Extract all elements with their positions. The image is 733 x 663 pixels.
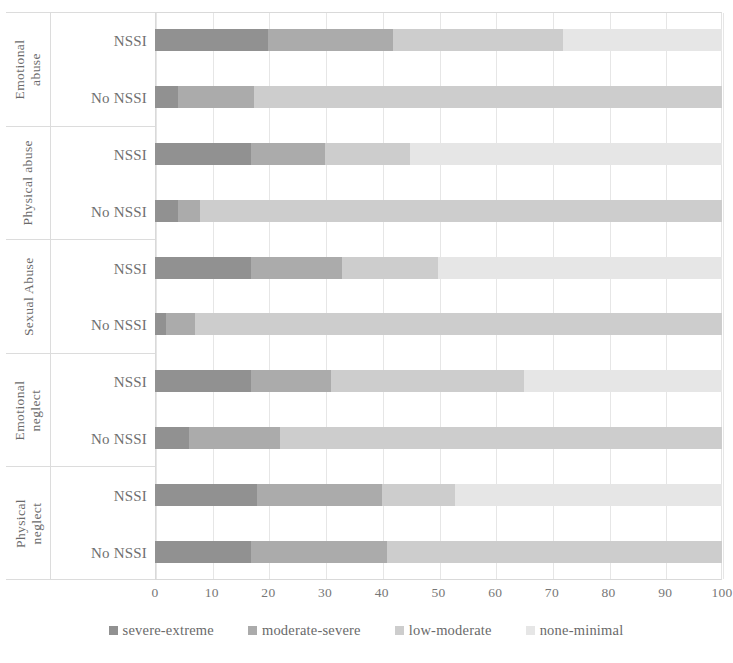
bar-segment-low-moderate: [200, 200, 722, 222]
category-label-line: neglect: [28, 380, 44, 440]
legend-label: severe-extreme: [123, 622, 214, 639]
bar-segment-moderate-severe: [178, 86, 255, 108]
group-box: NSSINo NSSI: [50, 12, 155, 126]
category-label-text: Physical abuse: [20, 140, 36, 225]
bar-segment-moderate-severe: [251, 370, 330, 392]
bar-segment-low-moderate: [331, 370, 524, 392]
bar-segment-severe-extreme: [155, 370, 251, 392]
bar-physical-neglect-no-nssi: [155, 541, 722, 563]
legend-item-severe-extreme[interactable]: severe-extreme: [109, 622, 214, 639]
row-label-nssi: NSSI: [114, 374, 147, 391]
group-box: NSSINo NSSI: [50, 353, 155, 467]
bar-segment-low-moderate: [195, 313, 722, 335]
legend-item-moderate-severe[interactable]: moderate-severe: [248, 622, 361, 639]
bar-segment-moderate-severe: [178, 200, 201, 222]
category-axis: EmotionalabusePhysical abuseSexual Abuse…: [6, 12, 50, 580]
row-label-nssi: NSSI: [114, 33, 147, 50]
bar-segment-low-moderate: [254, 86, 722, 108]
x-tick-label-10: 10: [205, 585, 219, 601]
category-label-line: abuse: [28, 39, 44, 99]
bar-segment-moderate-severe: [189, 427, 280, 449]
row-label-nssi: NSSI: [114, 146, 147, 163]
bar-segment-moderate-severe: [166, 313, 194, 335]
bar-physical-abuse-no-nssi: [155, 200, 722, 222]
category-label-text: Emotionalneglect: [12, 380, 43, 440]
bar-segment-moderate-severe: [251, 143, 325, 165]
bar-segment-severe-extreme: [155, 86, 178, 108]
bar-physical-neglect-nssi: [155, 484, 722, 506]
row-label-no-nssi: No NSSI: [91, 90, 147, 107]
bar-segment-severe-extreme: [155, 29, 268, 51]
row-label-no-nssi: No NSSI: [91, 430, 147, 447]
legend-swatch-icon: [248, 626, 257, 635]
legend-swatch-icon: [395, 626, 404, 635]
category-label-line: neglect: [28, 499, 44, 548]
group-box: NSSINo NSSI: [50, 466, 155, 580]
bar-segment-low-moderate: [393, 29, 563, 51]
row-label-no-nssi: No NSSI: [91, 203, 147, 220]
category-label-sexual-abuse: Sexual Abuse: [6, 239, 50, 353]
x-tick-label-90: 90: [658, 585, 672, 601]
x-tick-label-20: 20: [261, 585, 275, 601]
category-label-text: Sexual Abuse: [20, 257, 36, 336]
x-tick-label-60: 60: [488, 585, 502, 601]
legend-label: low-moderate: [409, 622, 492, 639]
category-label-physical-neglect: Physicalneglect: [6, 466, 50, 580]
bar-segment-severe-extreme: [155, 427, 189, 449]
x-tick-label-30: 30: [318, 585, 332, 601]
bar-segment-none-minimal: [410, 143, 722, 165]
category-label-line: Physical abuse: [20, 140, 35, 225]
bar-sexual-abuse-nssi: [155, 257, 722, 279]
bar-emotional-neglect-nssi: [155, 370, 722, 392]
bar-segment-moderate-severe: [268, 29, 393, 51]
bar-physical-abuse-nssi: [155, 143, 722, 165]
bar-sexual-abuse-no-nssi: [155, 313, 722, 335]
x-tick-label-50: 50: [431, 585, 445, 601]
x-tick-label-80: 80: [602, 585, 616, 601]
bar-segment-severe-extreme: [155, 541, 251, 563]
bar-segment-none-minimal: [438, 257, 722, 279]
bar-segment-moderate-severe: [251, 257, 342, 279]
chart-legend: severe-extrememoderate-severelow-moderat…: [0, 622, 732, 639]
x-axis: 0102030405060708090100: [155, 581, 722, 607]
bar-segment-low-moderate: [382, 484, 456, 506]
bar-segment-none-minimal: [524, 370, 722, 392]
gridline-100: [723, 13, 724, 579]
x-tick-label-0: 0: [151, 585, 158, 601]
bar-segment-low-moderate: [325, 143, 410, 165]
bar-emotional-abuse-nssi: [155, 29, 722, 51]
legend-swatch-icon: [109, 626, 118, 635]
category-label-text: Emotionalabuse: [12, 39, 43, 99]
row-label-no-nssi: No NSSI: [91, 544, 147, 561]
category-label-emotional-abuse: Emotionalabuse: [6, 12, 50, 126]
legend-swatch-icon: [526, 626, 535, 635]
x-tick-label-70: 70: [545, 585, 559, 601]
category-label-line: Sexual Abuse: [20, 257, 35, 336]
bar-segment-moderate-severe: [251, 541, 387, 563]
bar-emotional-abuse-no-nssi: [155, 86, 722, 108]
bar-segment-severe-extreme: [155, 484, 257, 506]
bar-segment-low-moderate: [280, 427, 722, 449]
bar-segment-low-moderate: [387, 541, 722, 563]
group-box: NSSINo NSSI: [50, 239, 155, 353]
legend-item-none-minimal[interactable]: none-minimal: [526, 622, 624, 639]
legend-item-low-moderate[interactable]: low-moderate: [395, 622, 492, 639]
row-label-nssi: NSSI: [114, 260, 147, 277]
bar-segment-severe-extreme: [155, 200, 178, 222]
series-row-axis: NSSINo NSSINSSINo NSSINSSINo NSSINSSINo …: [50, 12, 155, 580]
group-box: NSSINo NSSI: [50, 126, 155, 240]
bar-segment-moderate-severe: [257, 484, 382, 506]
category-label-line: Emotional: [12, 380, 27, 440]
legend-label: none-minimal: [540, 622, 624, 639]
legend-label: moderate-severe: [262, 622, 361, 639]
bar-segment-low-moderate: [342, 257, 438, 279]
bar-emotional-neglect-no-nssi: [155, 427, 722, 449]
row-label-no-nssi: No NSSI: [91, 317, 147, 334]
category-label-line: Emotional: [12, 39, 27, 99]
x-tick-label-100: 100: [711, 585, 732, 601]
bar-segment-severe-extreme: [155, 143, 251, 165]
row-label-nssi: NSSI: [114, 487, 147, 504]
category-label-emotional-neglect: Emotionalneglect: [6, 353, 50, 467]
category-label-physical-abuse: Physical abuse: [6, 126, 50, 240]
